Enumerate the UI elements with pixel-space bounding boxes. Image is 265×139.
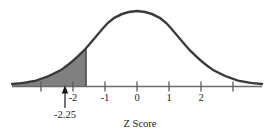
x-tick-label-one: 1: [166, 93, 171, 104]
shaded-tail-region: [12, 49, 86, 86]
normal-curve: [12, 11, 262, 84]
x-axis-title: Z Score: [124, 119, 157, 130]
normal-distribution-figure: -2 -1 0 1 2 -2.25 Z Score: [0, 0, 265, 139]
x-tick-label-two: 2: [198, 93, 203, 104]
x-tick-label-neg1: -1: [101, 93, 110, 104]
x-tick-label-zero: 0: [134, 93, 139, 104]
z-score-annotation-label: -2.25: [54, 110, 76, 121]
x-tick-label-neg2: -2: [69, 93, 78, 104]
